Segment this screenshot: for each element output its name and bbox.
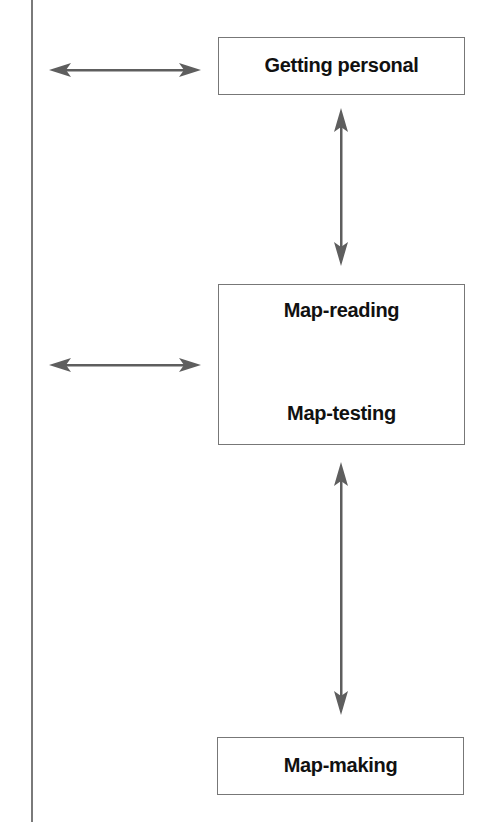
bidirectional-arrow-top (49, 63, 201, 77)
node-getting-personal: Getting personal (218, 37, 465, 95)
node-map-reading-testing: Map-reading Map-testing (218, 284, 465, 445)
node-label: Getting personal (219, 54, 464, 77)
node-label-map-testing: Map-testing (219, 402, 464, 425)
bidirectional-arrow-vertical-2 (334, 462, 348, 715)
bidirectional-arrow-vertical-1 (334, 108, 348, 266)
node-map-making: Map-making (217, 737, 464, 795)
node-label: Map-making (218, 754, 463, 777)
bidirectional-arrow-middle (49, 358, 201, 372)
node-label-map-reading: Map-reading (219, 299, 464, 322)
